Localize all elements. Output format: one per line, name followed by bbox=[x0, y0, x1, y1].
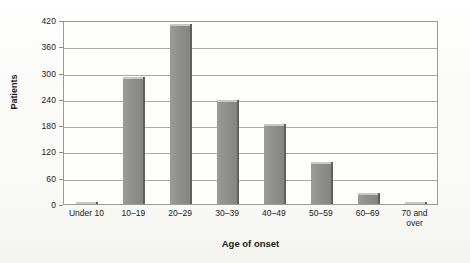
bar bbox=[170, 24, 192, 204]
gridline bbox=[64, 127, 437, 128]
y-axis-tick-label: 0 bbox=[51, 200, 56, 210]
bar-top-highlight bbox=[217, 100, 239, 102]
gridline bbox=[64, 48, 437, 49]
y-axis-title: Patients bbox=[9, 74, 19, 109]
bar-top-highlight bbox=[358, 193, 380, 195]
x-axis-tick-label: 30–39 bbox=[204, 209, 251, 219]
x-axis-tick-label: 50–59 bbox=[297, 209, 344, 219]
bar bbox=[405, 202, 427, 204]
bar-right-shadow bbox=[237, 100, 239, 204]
bar-top-highlight bbox=[405, 202, 427, 204]
gridline bbox=[64, 101, 437, 102]
y-axis-tick-label: 420 bbox=[42, 16, 56, 26]
x-axis-tick-label: 60–69 bbox=[344, 209, 391, 219]
y-axis-tick-label: 360 bbox=[42, 42, 56, 52]
x-axis-tick-label: 70 and over bbox=[391, 209, 438, 228]
y-axis-tick-mark bbox=[59, 179, 63, 180]
bar-top-highlight bbox=[76, 202, 98, 204]
x-axis-title: Age of onset bbox=[63, 238, 438, 249]
gridline bbox=[64, 153, 437, 154]
x-axis-tick-label: 10–19 bbox=[110, 209, 157, 219]
bar-top-highlight bbox=[123, 77, 145, 79]
bar bbox=[264, 124, 286, 204]
y-axis-tick-mark bbox=[59, 205, 63, 206]
y-axis-tick-mark bbox=[59, 100, 63, 101]
x-axis-tick-label: 40–49 bbox=[251, 209, 298, 219]
bar bbox=[76, 202, 98, 204]
bar-top-highlight bbox=[264, 124, 286, 126]
x-axis-tick-label: Under 10 bbox=[63, 209, 110, 219]
bar-right-shadow bbox=[331, 162, 333, 204]
gridline bbox=[64, 180, 437, 181]
bar-right-shadow bbox=[425, 202, 427, 204]
x-axis-tick-label: 20–29 bbox=[157, 209, 204, 219]
y-axis-tick-mark bbox=[59, 126, 63, 127]
bar bbox=[123, 77, 145, 204]
bar-right-shadow bbox=[96, 202, 98, 204]
plot-area bbox=[63, 21, 438, 205]
bar-chart-figure: Patients Age of onset 060120180240300360… bbox=[0, 0, 470, 263]
y-axis-tick-label: 120 bbox=[42, 147, 56, 157]
bar-right-shadow bbox=[284, 124, 286, 204]
bar bbox=[217, 100, 239, 204]
y-axis-tick-label: 180 bbox=[42, 121, 56, 131]
bar-right-shadow bbox=[143, 77, 145, 204]
y-axis-tick-mark bbox=[59, 21, 63, 22]
bar-top-highlight bbox=[311, 162, 333, 164]
bar-right-shadow bbox=[378, 193, 380, 204]
bar bbox=[311, 162, 333, 204]
bar-right-shadow bbox=[190, 24, 192, 204]
bar bbox=[358, 193, 380, 204]
y-axis-tick-label: 300 bbox=[42, 69, 56, 79]
bar-top-highlight bbox=[170, 24, 192, 26]
y-axis-tick-mark bbox=[59, 47, 63, 48]
y-axis-tick-label: 60 bbox=[46, 174, 56, 184]
y-axis-tick-label: 240 bbox=[42, 95, 56, 105]
y-axis-tick-mark bbox=[59, 74, 63, 75]
gridline bbox=[64, 75, 437, 76]
y-axis-tick-mark bbox=[59, 152, 63, 153]
